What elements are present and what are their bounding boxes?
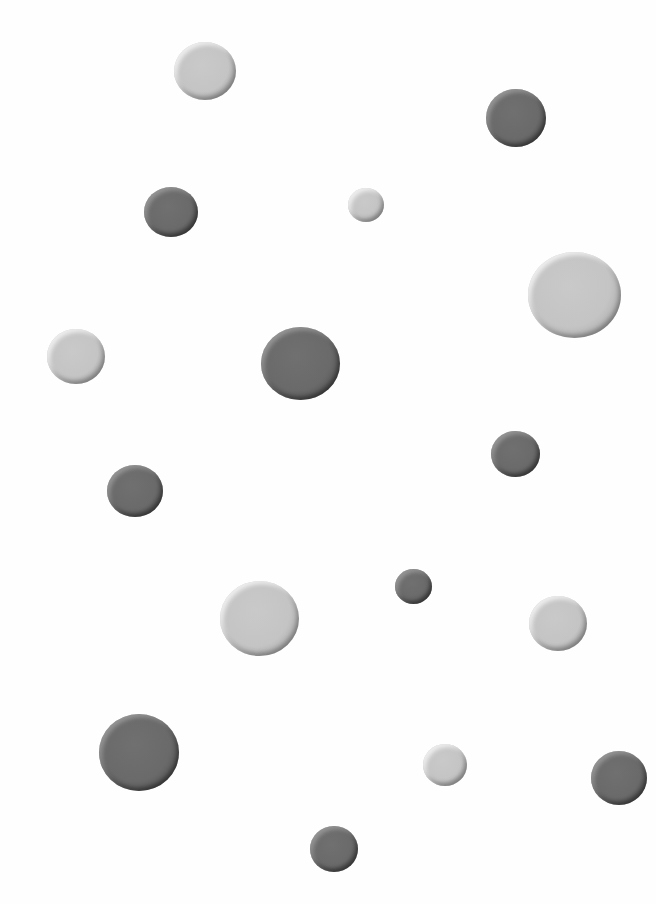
- dark-dot-1: [486, 89, 546, 147]
- light-dot-13: [423, 744, 467, 786]
- dark-dot-7: [491, 431, 540, 477]
- light-dot-3: [348, 188, 384, 222]
- dark-dot-14: [591, 751, 647, 805]
- dark-dot-6: [261, 327, 340, 400]
- dark-dot-15: [310, 826, 358, 872]
- dot-canvas: [0, 0, 656, 904]
- dark-dot-10: [395, 569, 432, 604]
- dark-dot-8: [107, 465, 163, 517]
- dark-dot-12: [99, 714, 179, 791]
- light-dot-5: [47, 329, 105, 384]
- light-dot-0: [174, 42, 236, 100]
- light-dot-9: [220, 581, 299, 656]
- light-dot-11: [529, 596, 587, 651]
- dark-dot-2: [144, 187, 198, 237]
- light-dot-4: [528, 252, 621, 338]
